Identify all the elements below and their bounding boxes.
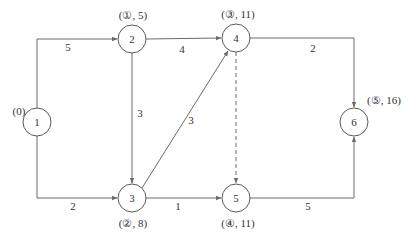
node-3: 3 [118, 184, 146, 212]
node-4: 4 [222, 24, 250, 52]
edge-weight-5-6: 5 [305, 200, 311, 212]
edge-1-2 [37, 39, 117, 108]
network-diagram: 5 2 4 3 3 1 2 5 1 2 3 4 5 6 [0, 0, 406, 238]
node-5: 5 [222, 184, 250, 212]
node-label: 3 [129, 192, 135, 204]
node-label: 2 [129, 33, 135, 45]
edge-weight-4-6: 2 [310, 42, 316, 54]
node-6-annotation: (⑤, 16) [367, 94, 401, 107]
node-label: 1 [34, 116, 40, 128]
edge-3-4 [142, 51, 228, 188]
edge-2-4 [146, 38, 221, 39]
node-1-annotation: (0) [13, 105, 26, 118]
edge-weight-3-4: 3 [188, 114, 194, 126]
edge-weight-2-3: 3 [137, 107, 143, 119]
edge-weight-2-4: 4 [179, 43, 185, 55]
node-5-annotation: (④, 11) [221, 217, 255, 230]
node-label: 6 [351, 116, 357, 128]
edge-weight-3-5: 1 [175, 200, 181, 212]
node-6: 6 [340, 108, 368, 136]
node-2: 2 [118, 25, 146, 53]
nodes: 1 2 3 4 5 6 [23, 24, 368, 212]
edge-labels: 5 2 4 3 3 1 2 5 [65, 41, 316, 212]
edge-weight-1-2: 5 [65, 41, 71, 53]
node-label: 4 [233, 32, 239, 44]
node-label: 5 [233, 192, 239, 204]
edges [37, 38, 354, 198]
edge-weight-1-3: 2 [70, 200, 76, 212]
edge-4-6 [250, 38, 354, 107]
node-2-annotation: (①, 5) [119, 9, 148, 22]
edge-5-6 [250, 137, 354, 198]
node-3-annotation: (②, 8) [119, 217, 148, 230]
node-4-annotation: (③, 11) [221, 8, 255, 21]
edge-1-3 [37, 136, 117, 198]
node-1: 1 [23, 108, 51, 136]
